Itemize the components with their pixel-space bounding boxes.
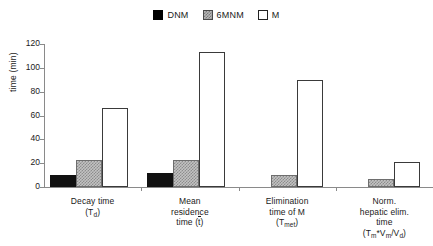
x-axis-separator [141,187,142,191]
y-tick-label: 100 [26,63,40,72]
y-tick-mark [40,44,45,45]
bar-6mnm-group-1 [76,160,102,187]
y-tick-label: 20 [31,158,40,167]
legend-label-m: M [272,10,280,20]
x-axis-label-symbol: time (t) [141,217,238,228]
y-tick-label: 60 [31,111,40,120]
x-axis-label-elimination-time-of-m: Eliminationtime of M(Tmet) [239,196,336,229]
bar-dnm-group-1 [50,175,76,187]
y-tick-mark [40,187,45,188]
x-axis-label-line: Norm. [336,196,433,207]
x-axis-label-symbol: (Tm*Vm/Vd) [336,228,433,240]
x-axis-label-line: time [336,217,433,228]
x-axis-separator [336,187,337,191]
legend-item-6mnm: 6MNM [203,10,244,20]
x-axis-label-symbol: (Td) [44,207,141,219]
x-axis-label-decay-time: Decay time(Td) [44,196,141,218]
x-axis-label-line: residence [141,207,238,218]
plot-area: time (min) 020406080100120 Decay time(Td… [44,44,433,187]
x-axis-label-line: time of M [239,207,336,218]
y-tick-label: 0 [35,182,40,191]
y-axis-title: time (min) [8,52,18,92]
bar-m-group-1 [102,108,128,187]
x-axis-label-line: Elimination [239,196,336,207]
y-tick-label: 80 [31,87,40,96]
x-axis-label-mean-residence-time: Meanresidencetime (t) [141,196,238,228]
bar-m-group-2 [199,52,225,187]
bar-6mnm-group-4 [368,179,394,187]
bar-m-group-3 [297,80,323,187]
legend-swatch-dnm-icon [153,10,163,20]
legend-label-dnm: DNM [167,10,188,20]
y-tick-mark [40,68,45,69]
x-axis-label-line: hepatic elim. [336,207,433,218]
chart-legend: DNM 6MNM M [0,10,433,20]
legend-swatch-m-icon [258,10,268,20]
y-tick-mark [40,116,45,117]
bar-chart-figure: DNM 6MNM M time (min) 020406080100120 De… [0,0,433,246]
legend-label-6mnm: 6MNM [217,10,244,20]
x-axis-label-symbol: (Tmet) [239,217,336,229]
y-tick-label: 120 [26,39,40,48]
y-tick-mark [40,92,45,93]
x-axis-separator [239,187,240,191]
bar-m-group-4 [394,162,420,187]
y-tick-mark [40,139,45,140]
bar-6mnm-group-2 [173,160,199,187]
legend-swatch-6mnm-icon [203,10,213,20]
y-tick-label: 40 [31,134,40,143]
y-tick-mark [40,163,45,164]
x-axis-label-line: Mean [141,196,238,207]
x-axis-label-line: Decay time [44,196,141,207]
bar-dnm-group-2 [147,173,173,187]
x-axis-label-norm-hepatic-elim-time: Norm.hepatic elim.time(Tm*Vm/Vd) [336,196,433,239]
legend-item-m: M [258,10,280,20]
bar-6mnm-group-3 [271,175,297,187]
legend-item-dnm: DNM [153,10,188,20]
